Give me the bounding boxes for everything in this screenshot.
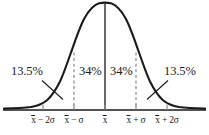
x-bar-symbol: x <box>103 116 108 126</box>
left-middle-percent-label: 34% <box>79 65 102 78</box>
left-tail-percent-label: 13.5% <box>11 65 43 78</box>
right-middle-percent-label: 34% <box>110 65 133 78</box>
tick-label-minus-1-sigma-rest: − σ <box>69 115 83 125</box>
x-bar-symbol: x <box>65 116 70 126</box>
tick-label-minus-2-sigma-rest: − 2σ <box>36 115 55 125</box>
x-bar-symbol: x <box>155 116 160 126</box>
tick-label-minus-1-sigma: x − σ <box>65 116 84 126</box>
tick-label-mean: x <box>103 116 108 126</box>
tick-label-plus-1-sigma-rest: + σ <box>131 115 145 125</box>
x-bar-symbol: x <box>31 116 36 126</box>
tick-label-plus-1-sigma: x + σ <box>127 116 146 126</box>
x-bar-symbol: x <box>127 116 132 126</box>
bell-curve-figure: 13.5% 34% 34% 13.5% x − 2σ x − σ x x + σ… <box>0 0 209 135</box>
tick-label-plus-2-sigma-rest: + 2σ <box>160 115 179 125</box>
tick-label-minus-2-sigma: x − 2σ <box>31 116 55 126</box>
tick-label-plus-2-sigma: x + 2σ <box>155 116 179 126</box>
right-tail-percent-label: 13.5% <box>164 65 196 78</box>
